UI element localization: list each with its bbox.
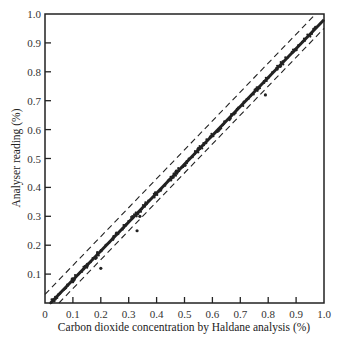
plot-frame — [45, 14, 324, 303]
x-tick-label: 0.4 — [150, 308, 164, 320]
y-tick-label: 0.9 — [27, 37, 41, 49]
x-tick-label: 0 — [42, 308, 48, 320]
x-tick-label: 1.0 — [317, 308, 331, 320]
outlier-point — [138, 215, 141, 218]
x-tick-label: 0.7 — [233, 308, 247, 320]
y-tick-label: 0.5 — [27, 153, 41, 165]
outlier-point — [135, 229, 138, 232]
y-axis-ticks: 0.10.20.30.40.50.60.70.80.91.0 — [27, 8, 51, 280]
y-tick-label: 0.4 — [27, 181, 41, 193]
tolerance-line — [59, 28, 324, 303]
data-lines — [45, 14, 324, 304]
y-axis-title: Analyser reading (%) — [10, 108, 23, 207]
x-tick-label: 0.3 — [122, 308, 136, 320]
y-tick-label: 0.8 — [27, 66, 41, 78]
x-axis-ticks: 00.10.20.30.40.50.60.70.80.91.0 — [42, 297, 331, 320]
y-tick-label: 0.7 — [27, 95, 41, 107]
outlier-point — [99, 267, 102, 270]
y-tick-label: 0.6 — [27, 124, 41, 136]
x-tick-label: 0.6 — [206, 308, 220, 320]
y-tick-label: 0.2 — [27, 239, 41, 251]
y-tick-label: 0.1 — [27, 268, 41, 280]
x-tick-label: 0.9 — [289, 308, 303, 320]
x-tick-label: 0.1 — [66, 308, 80, 320]
outlier-points — [99, 93, 267, 270]
x-tick-label: 0.8 — [261, 308, 275, 320]
y-tick-label: 1.0 — [27, 8, 41, 20]
outlier-point — [264, 93, 267, 96]
x-tick-label: 0.5 — [178, 308, 192, 320]
y-tick-label: 0.3 — [27, 210, 41, 222]
x-axis-title: Carbon dioxide concentration by Haldane … — [58, 321, 310, 334]
scatter-chart: 00.10.20.30.40.50.60.70.80.91.0 0.10.20.… — [0, 0, 341, 344]
tolerance-line — [45, 14, 316, 294]
x-tick-label: 0.2 — [94, 308, 108, 320]
